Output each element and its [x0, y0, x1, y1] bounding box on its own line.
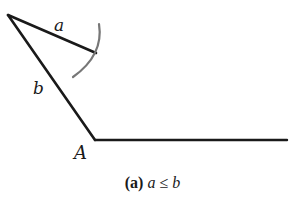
label-a: a: [54, 17, 64, 34]
label-vertex-A: A: [74, 144, 87, 162]
caption-lhs: a: [147, 174, 155, 191]
triangle-construction-diagram: [0, 0, 305, 202]
caption-operator: ≤: [159, 174, 168, 191]
caption-rhs: b: [172, 174, 180, 191]
compass-arc: [73, 24, 100, 77]
label-b: b: [33, 80, 44, 97]
caption-prefix: (a): [125, 174, 144, 191]
figure-caption: (a) a ≤ b: [0, 174, 305, 192]
